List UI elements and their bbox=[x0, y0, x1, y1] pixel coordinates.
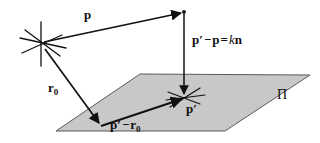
diagram-canvas bbox=[0, 0, 320, 143]
eq-n-normal-symbol: n bbox=[235, 32, 242, 47]
vector-kn-equation-label: p′−p=kn bbox=[192, 31, 242, 47]
plane-polygon bbox=[56, 74, 310, 131]
point-p-prime-label: p′ bbox=[186, 100, 197, 116]
vector-r0-label: r0 bbox=[48, 79, 58, 97]
inplane-minus-sign: − bbox=[121, 117, 130, 132]
vector-pp-minus-r0-label: p′−r0 bbox=[110, 116, 141, 134]
plane-pi-label: Π bbox=[277, 86, 287, 102]
eq-minus-sign: − bbox=[203, 32, 212, 47]
eq-equals-sign: = bbox=[220, 32, 229, 47]
vector-p-symbol: p bbox=[84, 7, 91, 22]
vector-p-arrow bbox=[44, 13, 181, 42]
point-p-prime-mark: ′ bbox=[193, 101, 197, 116]
vector-p-label: p bbox=[84, 6, 91, 22]
vector-plane-diagram: p p′−p=kn r0 p′−r0 p′ Π bbox=[0, 0, 320, 143]
point-p-dot bbox=[182, 10, 186, 14]
origin-asterisk-icon bbox=[20, 22, 66, 66]
eq-p-symbol: p bbox=[212, 32, 219, 47]
vector-r0-subscript: 0 bbox=[54, 87, 59, 97]
plane-pi-symbol: Π bbox=[277, 87, 287, 102]
inplane-r-subscript: 0 bbox=[136, 124, 141, 134]
